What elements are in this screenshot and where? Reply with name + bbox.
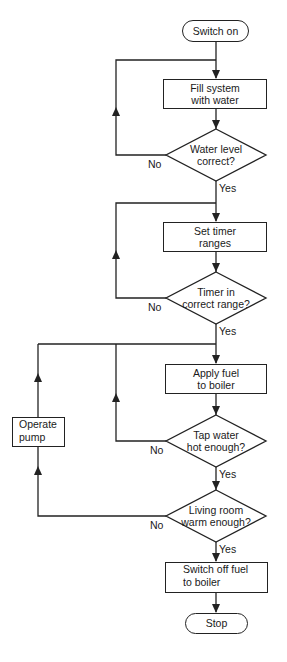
tap-water-label-2: hot enough? [187,441,245,454]
living-room-no-label: No [150,519,163,531]
switch-off-fuel-process: Switch off fuel to boiler [165,562,268,593]
apply-fuel-process: Apply fuel to boiler [165,364,267,394]
switch-off-label-2: to boiler [183,576,220,589]
living-room-decision: Living room warm enough? [168,503,264,529]
fill-system-process: Fill system with water [163,79,267,109]
start-terminator: Switch on [182,20,249,42]
timer-range-yes-label: Yes [219,325,236,337]
water-level-decision: Water level correct? [170,142,262,168]
living-room-label-2: warm enough? [181,516,250,529]
living-room-yes-label: Yes [219,543,236,555]
stop-terminator: Stop [185,613,248,634]
operate-pump-label-1: Operate [19,418,57,431]
start-label: Switch on [193,25,239,38]
water-level-yes-label: Yes [219,182,236,194]
timer-range-label-1: Timer in [197,286,235,299]
switch-off-label-1: Switch off fuel [183,563,248,576]
apply-fuel-label-1: Apply fuel [193,367,239,380]
set-timer-process: Set timer ranges [163,222,267,252]
fill-label-1: Fill system [190,82,240,95]
living-room-label-1: Living room [189,504,243,517]
tap-water-label-1: Tap water [193,429,239,442]
timer-range-no-label: No [148,301,161,313]
apply-fuel-label-2: to boiler [197,379,234,392]
tap-water-decision: Tap water hot enough? [170,428,262,454]
water-level-label-1: Water level [190,143,242,156]
timer-range-decision: Timer in correct range? [168,285,264,311]
timer-range-label-2: correct range? [182,298,250,311]
tap-water-no-label: No [150,444,163,456]
set-timer-label-2: ranges [199,237,231,250]
fill-label-2: with water [191,94,238,107]
water-level-label-2: correct? [197,155,235,168]
operate-pump-process: Operate pump [12,417,65,447]
water-level-no-label: No [148,158,161,170]
operate-pump-label-2: pump [19,431,45,444]
tap-water-yes-label: Yes [219,468,236,480]
set-timer-label-1: Set timer [194,225,236,238]
stop-label: Stop [206,617,228,630]
